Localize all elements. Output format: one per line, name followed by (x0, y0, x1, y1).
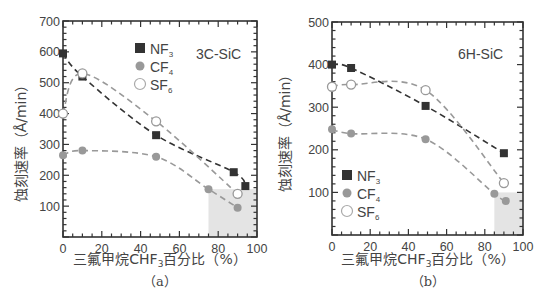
legend-circle-icon (342, 206, 353, 217)
y-tick-label: 100 (39, 200, 60, 214)
legend-label: NF3 (150, 41, 174, 59)
nf3-marker (59, 49, 67, 57)
series-b (328, 61, 510, 205)
nf3-marker (230, 168, 238, 176)
sample-label-a: 3C-SiC (196, 46, 241, 62)
cf4-marker (234, 204, 242, 212)
sf6-marker (233, 189, 242, 198)
legend-square-icon (135, 43, 145, 53)
nf3-marker (328, 61, 336, 69)
x-tick-label: 0 (60, 242, 67, 256)
nf3-marker (347, 64, 355, 72)
y-tick-label: 700 (39, 15, 60, 29)
cf4-marker (152, 153, 160, 161)
legend-dot-icon (343, 189, 352, 198)
chart-panel-a: 020406080100100200300400500600700 3C-SiC… (13, 15, 267, 290)
figure: 020406080100100200300400500600700 3C-SiC… (0, 0, 551, 298)
cf4-marker (490, 190, 498, 198)
legend-a: NF3CF4SF6 (135, 41, 174, 95)
y-tick-label: 300 (308, 101, 329, 115)
y-tick-label: 100 (308, 186, 329, 200)
legend-b: NF3CF4SF6 (342, 168, 381, 222)
x-tick-label: 100 (247, 242, 268, 256)
panel-label-b: （b） (411, 274, 445, 289)
sf6-marker (499, 179, 508, 188)
y-tick-label: 400 (39, 107, 60, 121)
sf6-marker (421, 86, 430, 95)
y-axis-title-b: 蚀刻速率（Å/min） (277, 68, 293, 193)
cf4-marker (59, 151, 67, 159)
sf6-marker (152, 117, 161, 126)
sample-label-b: 6H-SiC (458, 46, 503, 62)
series-line-nf3 (332, 64, 504, 153)
cf4-marker (347, 130, 355, 138)
y-tick-label: 200 (308, 143, 329, 157)
chart-panel-b: 020406080100100200300400500 6H-SiC NF3CF… (277, 16, 533, 290)
sf6-marker (328, 82, 337, 91)
legend-label: SF6 (357, 204, 380, 222)
legend-label: SF6 (150, 77, 173, 95)
x-axis-title-a: 三氟甲烷CHF3百分比（%） (73, 251, 246, 269)
y-tick-label: 400 (308, 58, 329, 72)
legend-label: CF4 (357, 186, 381, 204)
panel-label-a: （a） (143, 274, 177, 289)
cf4-marker (78, 147, 86, 155)
legend-dot-icon (136, 62, 145, 71)
legend-label: NF3 (357, 168, 381, 186)
x-tick-label: 100 (513, 240, 534, 254)
nf3-marker (500, 149, 508, 157)
nf3-marker (241, 182, 249, 190)
y-axis-title-a: 蚀刻速率（Å/min） (13, 78, 29, 203)
highlight-region-a (209, 189, 258, 237)
sf6-marker (347, 80, 356, 89)
legend-circle-icon (135, 79, 146, 90)
nf3-marker (422, 102, 430, 110)
cf4-marker (205, 185, 213, 193)
y-tick-label: 300 (39, 138, 60, 152)
x-tick-label: 0 (329, 240, 336, 254)
cf4-marker (328, 125, 336, 133)
y-tick-label: 500 (308, 16, 329, 30)
cf4-marker (502, 197, 510, 205)
sf6-marker (59, 109, 68, 118)
legend-square-icon (342, 170, 352, 180)
y-tick-label: 200 (39, 169, 60, 183)
x-axis-title-b: 三氟甲烷CHF3百分比（%） (341, 251, 514, 269)
cf4-marker (422, 135, 430, 143)
sf6-marker (78, 69, 87, 78)
legend-label: CF4 (150, 59, 174, 77)
nf3-marker (152, 131, 160, 139)
y-tick-label: 500 (39, 76, 60, 90)
y-tick-label: 600 (39, 45, 60, 59)
